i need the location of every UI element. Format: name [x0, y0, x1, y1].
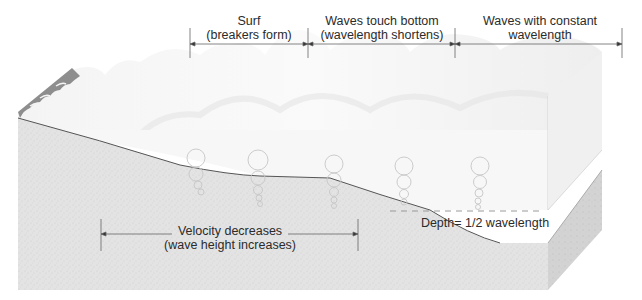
block-diagram-graphic	[0, 0, 642, 300]
velocity-label: Velocity decreases (wave height increase…	[160, 224, 300, 252]
zone-label-touch-line2: (wavelength shortens)	[312, 28, 452, 42]
zone-label-surf: Surf (breakers form)	[199, 14, 299, 42]
zone-label-constant: Waves with constant wavelength	[470, 14, 610, 42]
zone-label-constant-line1: Waves with constant	[470, 14, 610, 28]
zone-label-touch-bottom: Waves touch bottom (wavelength shortens)	[312, 14, 452, 42]
zone-label-touch-line1: Waves touch bottom	[312, 14, 452, 28]
velocity-label-line1: Velocity decreases	[160, 224, 300, 238]
zone-label-surf-line1: Surf	[199, 14, 299, 28]
zone-label-constant-line2: wavelength	[470, 28, 610, 42]
velocity-label-line2: (wave height increases)	[160, 238, 300, 252]
water-surface	[18, 30, 602, 140]
depth-label: Depth= 1/2 wavelength	[410, 216, 560, 230]
zone-label-surf-line2: (breakers form)	[199, 28, 299, 42]
wave-diagram: Surf (breakers form) Waves touch bottom …	[0, 0, 642, 300]
